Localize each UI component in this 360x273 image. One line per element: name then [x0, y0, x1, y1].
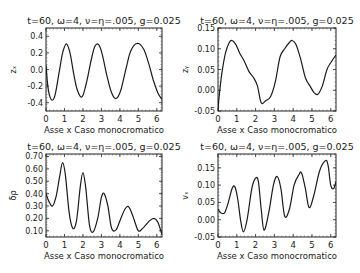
data-line	[218, 40, 336, 111]
chart-title: t=60, ω=4, ν=η=.005, g=0.025	[200, 15, 353, 26]
x-tick-label: 0	[215, 240, 220, 250]
y-axis-label: vₓ	[181, 191, 190, 200]
y-tick-label: 0.60	[25, 165, 43, 174]
y-tick-label: 0.2	[30, 49, 43, 58]
x-tick-label: 2	[253, 240, 258, 250]
y-tick-label: 0.10	[197, 45, 215, 54]
figure: t=60, ω=4, ν=η=.005, g=0.0250123456-0.4-…	[0, 0, 360, 273]
y-tick-label: 0.20	[25, 214, 43, 223]
y-tick-label: 0.4	[30, 32, 43, 41]
y-tick-label: 0.00	[197, 216, 215, 225]
panel-top-right: t=60, ω=4, ν=η=.005, g=0.0250123456-0.05…	[181, 15, 354, 135]
y-tick-label: 0.10	[197, 181, 215, 190]
x-tick-label: 2	[80, 114, 85, 124]
x-tick-label: 0	[43, 114, 48, 124]
data-line	[46, 43, 162, 100]
x-tick-label: 3	[99, 240, 104, 250]
y-tick-label: 0.0	[30, 66, 43, 75]
y-tick-label: 0.50	[25, 177, 43, 186]
x-tick-label: 1	[234, 114, 239, 124]
y-tick-label: 0.00	[197, 86, 215, 95]
y-axis-label: zₓ	[9, 65, 18, 73]
x-tick-label: 2	[253, 114, 258, 124]
plot-frame	[46, 28, 162, 111]
y-tick-label: 0.05	[197, 66, 215, 75]
x-axis-label: Asse x Caso monocromatico	[217, 125, 337, 135]
y-tick-label: 0.40	[25, 190, 43, 199]
x-tick-label: 6	[154, 240, 159, 250]
x-tick-label: 4	[290, 114, 295, 124]
panel-bottom-right: t=60, ω=4, ν=η=.005, g=0.0250123456-0.05…	[181, 141, 354, 261]
chart-title: t=60, ω=4, ν=η=.005, g=0.025	[27, 141, 180, 152]
panel-bottom-left: t=60, ω=4, ν=η=.005, g=0.02501234560.100…	[9, 141, 181, 261]
y-tick-label: 0.15	[197, 24, 215, 33]
x-tick-label: 6	[328, 240, 333, 250]
x-axis-label: Asse x Caso monocromatico	[44, 125, 164, 135]
x-tick-label: 1	[234, 240, 239, 250]
y-tick-label: 0.30	[25, 202, 43, 211]
x-tick-label: 3	[272, 240, 277, 250]
panel-top-left: t=60, ω=4, ν=η=.005, g=0.0250123456-0.4-…	[9, 15, 181, 135]
y-tick-label: -0.4	[27, 99, 43, 108]
chart-title: t=60, ω=4, ν=η=.005, g=0.025	[27, 15, 180, 26]
y-tick-label: -0.2	[27, 82, 43, 91]
x-tick-label: 4	[290, 240, 295, 250]
y-axis-label: zᵧ	[181, 66, 190, 73]
x-tick-label: 4	[117, 240, 122, 250]
x-tick-label: 5	[309, 240, 314, 250]
x-tick-label: 6	[328, 114, 333, 124]
x-tick-label: 5	[136, 114, 141, 124]
x-tick-label: 0	[215, 114, 220, 124]
x-tick-label: 4	[117, 114, 122, 124]
x-tick-label: 1	[62, 114, 67, 124]
x-tick-label: 0	[43, 240, 48, 250]
data-line	[218, 160, 336, 231]
chart-title: t=60, ω=4, ν=η=.005, g=0.025	[200, 141, 353, 152]
x-axis-label: Asse x Caso monocromatico	[217, 251, 337, 261]
x-tick-label: 3	[272, 114, 277, 124]
plot-frame	[218, 154, 336, 237]
y-tick-label: 0.05	[197, 198, 215, 207]
x-tick-label: 6	[154, 114, 159, 124]
x-tick-label: 3	[99, 114, 104, 124]
y-tick-label: 0.10	[25, 227, 43, 236]
y-tick-label: -0.05	[194, 233, 215, 242]
x-axis-label: Asse x Caso monocromatico	[44, 251, 164, 261]
x-tick-label: 1	[62, 240, 67, 250]
plot-frame	[46, 154, 162, 237]
x-tick-label: 2	[80, 240, 85, 250]
y-tick-label: 0.15	[197, 164, 215, 173]
data-line	[46, 163, 162, 235]
x-tick-label: 5	[309, 114, 314, 124]
y-tick-label: 0.70	[25, 152, 43, 161]
x-tick-label: 5	[136, 240, 141, 250]
y-tick-label: -0.05	[194, 107, 215, 116]
y-axis-label: δρ	[9, 191, 18, 201]
